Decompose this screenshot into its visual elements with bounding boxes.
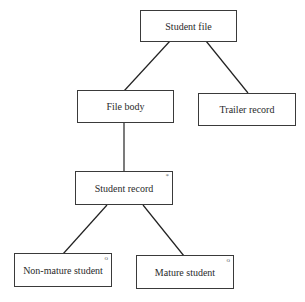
node-student-record: Student record * xyxy=(75,171,173,205)
node-label: Student record xyxy=(95,183,154,194)
node-label: Non-mature student xyxy=(23,265,103,276)
iteration-marker-icon: * xyxy=(166,173,170,180)
node-file-body: File body xyxy=(77,90,174,123)
node-student-file: Student file xyxy=(140,10,237,42)
node-label: Mature student xyxy=(155,267,215,278)
node-label: Student file xyxy=(165,21,211,32)
node-label: File body xyxy=(106,101,144,112)
node-mature-student: Mature student o xyxy=(136,255,234,289)
node-trailer-record: Trailer record xyxy=(198,93,296,126)
node-non-mature-student: Non-mature student o xyxy=(14,253,112,287)
selection-marker-icon: o xyxy=(227,257,231,264)
selection-marker-icon: o xyxy=(105,255,109,262)
node-label: Trailer record xyxy=(220,104,275,115)
